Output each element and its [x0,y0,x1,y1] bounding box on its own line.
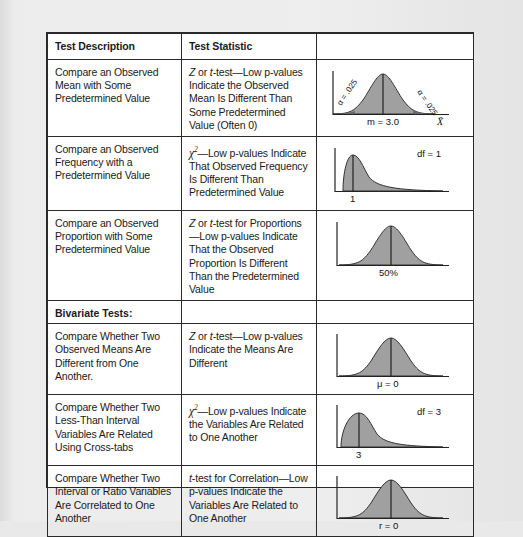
df-label: df = 3 [417,406,441,417]
test-statistic-cell: χ2—Low p-values Indicate That Observed F… [182,137,317,211]
chart-cell-normal-two-tailed: α = .025 α = .025 m = 3.0 X̄ [317,60,474,137]
chart-cell-normal-r0: r = 0 [317,466,474,537]
table: Test Description Test Statistic Compare … [47,33,474,537]
statistical-tests-table: Test Description Test Statistic Compare … [46,32,474,488]
section-label-bivariate-tests: Bivariate Tests: [48,301,182,324]
center-label: 50% [379,267,399,278]
conjunction: or [195,66,210,78]
table-header-row: Test Description Test Statistic [48,34,474,60]
test-description-cell: Compare an Observed Mean with Some Prede… [48,60,182,137]
table-section-row: Bivariate Tests: [48,301,474,324]
table-row: Compare an Observed Proportion with Some… [48,211,474,301]
statistic-text: -test for Correlation—Low p-values Indic… [189,472,308,524]
tick-label: 3 [356,449,361,460]
table-row: Compare Whether Two Interval or Ratio Va… [48,466,474,537]
alpha-left-label: α = .025 [335,77,359,107]
statistic-text: —Low p-values Indicate the Variables Are… [189,405,306,443]
chart-cell-normal-mu0: μ = 0 [317,324,474,395]
section-empty-cell-3 [317,301,474,324]
test-description-cell: Compare an Observed Frequency with a Pre… [48,137,182,211]
tick-label: 1 [350,193,355,204]
test-description-cell: Compare Whether Two Observed Means Are D… [48,324,182,395]
test-statistic-cell: t-test for Correlation—Low p-values Indi… [182,466,317,537]
chi-square-df3-curve-icon: df = 3 3 [325,401,465,461]
test-statistic-cell: Z or t-test—Low p-values Indicate the Ob… [182,60,317,137]
normal-r0-curve-icon: r = 0 [325,472,465,532]
chart-cell-normal-50: 50% [317,211,474,301]
table-row: Compare Whether Two Less-Than Interval V… [48,395,474,466]
df-label: df = 1 [417,148,441,159]
chi-square-df1-curve-icon: df = 1 1 [325,143,465,205]
column-header-illustration [317,34,474,60]
column-header-test-description: Test Description [48,34,182,60]
chart-cell-chisq-df3: df = 3 3 [317,395,474,466]
conjunction: or [195,217,210,229]
test-statistic-cell: χ2—Low p-values Indicate the Variables A… [182,395,317,466]
center-label: μ = 0 [377,378,399,389]
test-description-cell: Compare Whether Two Less-Than Interval V… [48,395,182,466]
normal-two-tailed-curve-icon: α = .025 α = .025 m = 3.0 X̄ [325,66,465,128]
mean-label: m = 3.0 [367,116,399,127]
test-statistic-cell: Z or t-test—Low p-values Indicate the Me… [182,324,317,395]
conjunction: or [195,330,210,342]
center-label: r = 0 [379,520,398,531]
table-row: Compare an Observed Frequency with a Pre… [48,137,474,211]
x-bar-label: X̄ [436,116,444,127]
table-row: Compare Whether Two Observed Means Are D… [48,324,474,395]
test-statistic-cell: Z or t-test for Proportions—Low p-values… [182,211,317,301]
chart-cell-chisq-df1: df = 1 1 [317,137,474,211]
statistic-text: —Low p-values Indicate That Observed Fre… [189,147,308,199]
table-row: Compare an Observed Mean with Some Prede… [48,60,474,137]
normal-50-percent-curve-icon: 50% [325,217,465,279]
test-description-cell: Compare an Observed Proportion with Some… [48,211,182,301]
column-header-test-statistic: Test Statistic [182,34,317,60]
section-empty-cell-2 [182,301,317,324]
test-description-cell: Compare Whether Two Interval or Ratio Va… [48,466,182,537]
normal-mu0-curve-icon: μ = 0 [325,330,465,390]
